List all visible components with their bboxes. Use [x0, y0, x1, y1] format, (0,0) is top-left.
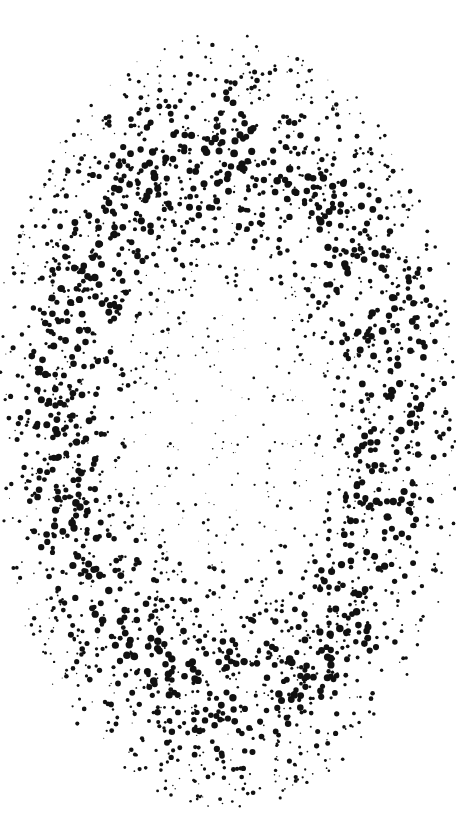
dot-pattern-artwork	[0, 0, 456, 813]
